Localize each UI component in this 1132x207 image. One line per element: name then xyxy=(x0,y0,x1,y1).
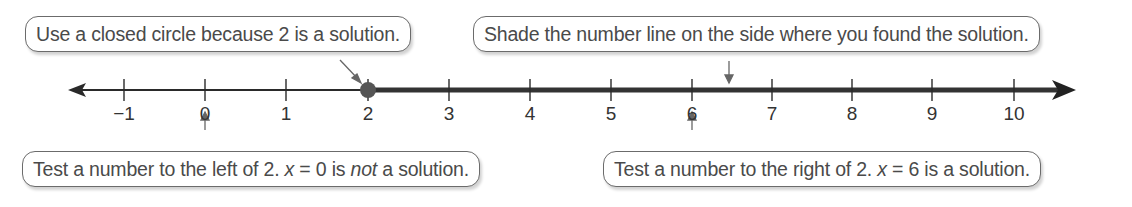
left-test-var: x xyxy=(285,158,295,180)
tick-label: 5 xyxy=(606,102,617,126)
right-test-eq: = 6 is a solution. xyxy=(887,158,1030,180)
callout-left-test: Test a number to the left of 2. x = 0 is… xyxy=(22,151,480,187)
tick-label: 1 xyxy=(281,102,292,126)
tick-label: 2 xyxy=(363,102,374,126)
right-test-var: x xyxy=(877,158,887,180)
tick-label: 9 xyxy=(927,102,938,126)
tick-label: −1 xyxy=(113,102,135,126)
left-test-eq: = 0 is xyxy=(294,158,350,180)
left-test-post: a solution. xyxy=(377,158,469,180)
left-test-pre: Test a number to the left of 2. xyxy=(33,158,285,180)
callout-right-test: Test a number to the right of 2. x = 6 i… xyxy=(603,151,1041,187)
tick-label: 4 xyxy=(525,102,536,126)
tick-label: 7 xyxy=(767,102,778,126)
tick-label: 0 xyxy=(200,102,211,126)
tick-label: 8 xyxy=(847,102,858,126)
right-test-pre: Test a number to the right of 2. xyxy=(614,158,877,180)
left-test-emph: not xyxy=(351,158,378,180)
tick-label: 6 xyxy=(687,102,698,126)
tick-label: 10 xyxy=(1003,102,1024,126)
closed-circle-point xyxy=(360,82,376,98)
callout-shade: Shade the number line on the side where … xyxy=(473,16,1040,52)
callout-closed-circle: Use a closed circle because 2 is a solut… xyxy=(25,16,411,52)
tick-label: 3 xyxy=(444,102,455,126)
